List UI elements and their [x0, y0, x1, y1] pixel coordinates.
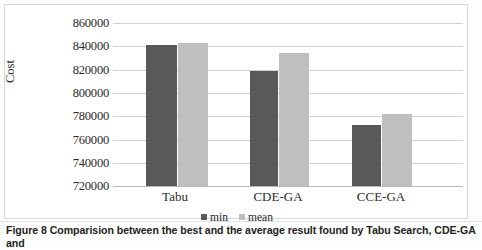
y-axis-title: Cost	[3, 60, 18, 83]
y-tick-label: 800000	[39, 87, 109, 99]
bar-series-layer	[113, 19, 463, 186]
legend-swatch-icon	[201, 214, 207, 220]
x-axis-tick-labels: Tabu CDE-GA CCE-GA	[113, 189, 463, 209]
y-tick-label: 720000	[39, 180, 109, 192]
x-tick-label-cde-ga: CDE-GA	[236, 189, 320, 205]
legend-swatch-icon	[239, 214, 245, 220]
y-tick-label: 840000	[39, 40, 109, 52]
bar-cde-ga-min[interactable]	[250, 71, 278, 186]
x-tick-label-tabu: Tabu	[133, 189, 217, 205]
y-tick-label: 780000	[39, 110, 109, 122]
chart-container: Cost 860000 840000 820000 800000 780000 …	[4, 4, 468, 219]
y-axis-tick-labels: 860000 840000 820000 800000 780000 76000…	[37, 19, 109, 186]
bar-group-tabu	[141, 19, 209, 186]
bar-group-cce-ga	[347, 19, 415, 186]
bar-cce-ga-mean[interactable]	[382, 114, 412, 186]
y-tick-label: 760000	[39, 134, 109, 146]
bar-cde-ga-mean[interactable]	[279, 53, 309, 186]
plot-area	[113, 19, 463, 186]
bar-cce-ga-min[interactable]	[352, 125, 381, 186]
figure-caption: Figure 8 Comparision between the best an…	[6, 224, 478, 250]
bar-group-cde-ga	[244, 19, 312, 186]
bar-tabu-mean[interactable]	[178, 43, 208, 186]
x-tick-label-cce-ga: CCE-GA	[339, 189, 423, 205]
y-tick-label: 740000	[39, 157, 109, 169]
axis-baseline	[113, 186, 463, 187]
bar-tabu-min[interactable]	[146, 45, 177, 186]
caption-divider	[0, 221, 482, 222]
y-tick-label: 820000	[39, 64, 109, 76]
y-tick-label: 860000	[39, 17, 109, 29]
